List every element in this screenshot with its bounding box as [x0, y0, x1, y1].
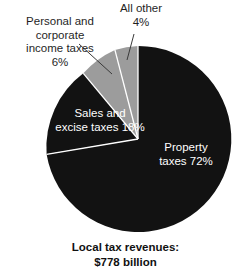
- slice-label-income-taxes-line1: Personal and: [26, 15, 94, 27]
- slice-value-all-other: 4%: [104, 16, 178, 30]
- pie-chart-figure: Personal and corporate income taxes 6% A…: [0, 0, 251, 275]
- chart-caption: Local tax revenues: $778 billion: [0, 240, 251, 270]
- slice-label-all-other: All other 4%: [104, 2, 178, 29]
- slice-label-income-taxes: Personal and corporate income taxes 6%: [6, 15, 114, 69]
- slice-label-property-taxes: Property taxes 72%: [150, 140, 222, 168]
- slice-value-income-taxes: 6%: [6, 56, 114, 70]
- slice-value-sales-and-excise-taxes: 18%: [122, 121, 145, 133]
- slice-label-all-other-line1: All other: [120, 2, 162, 14]
- slice-label-income-taxes-line2: corporate: [36, 29, 85, 41]
- slice-label-property-line1: Property: [164, 141, 207, 153]
- slice-label-property-line2: taxes: [159, 155, 187, 167]
- chart-caption-line2: $778 billion: [0, 255, 251, 270]
- slice-label-sales-line2: excise taxes: [55, 121, 118, 133]
- chart-caption-line1: Local tax revenues:: [72, 241, 179, 253]
- slice-value-property-taxes: 72%: [190, 155, 213, 167]
- slice-label-sales-and-excise-taxes: Sales and excise taxes 18%: [48, 106, 152, 134]
- slice-label-income-taxes-line3: income taxes: [26, 42, 94, 54]
- slice-label-sales-line1: Sales and: [74, 107, 125, 119]
